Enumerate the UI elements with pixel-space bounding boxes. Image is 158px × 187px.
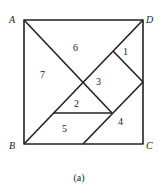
edge-piece-1: [113, 51, 143, 82]
tangram-figure: [0, 0, 158, 187]
piece-3-label: 3: [96, 77, 101, 87]
piece-4-label: 4: [118, 117, 123, 127]
vertex-d-label: D: [146, 15, 153, 25]
vertex-b-label: B: [9, 141, 15, 151]
vertex-a-label: A: [9, 15, 15, 25]
piece-7-label: 7: [40, 70, 45, 80]
piece-6-label: 6: [73, 43, 78, 53]
piece-1-label: 1: [123, 47, 128, 57]
piece-5-label: 5: [62, 124, 67, 134]
figure-caption: (a): [0, 172, 158, 183]
vertex-c-label: C: [146, 141, 153, 151]
piece-2-label: 2: [74, 99, 79, 109]
